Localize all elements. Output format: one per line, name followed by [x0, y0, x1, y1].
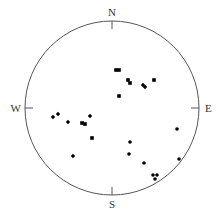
data-point-square [117, 94, 121, 98]
data-points [51, 68, 181, 181]
south-label: S [109, 198, 115, 210]
east-label: E [205, 102, 212, 114]
primitive-circle [25, 21, 199, 195]
north-label: N [108, 6, 116, 18]
stereonet-plot: N E S W [0, 0, 217, 210]
data-point-circle [127, 152, 131, 156]
data-point-diamond [71, 154, 75, 158]
data-point-square [83, 122, 87, 126]
data-point-diamond [51, 115, 55, 119]
west-label: W [11, 102, 22, 114]
data-point-square [90, 136, 94, 140]
data-point-diamond [88, 114, 92, 118]
data-point-square [117, 68, 121, 72]
data-point-circle [177, 157, 181, 161]
data-point-circle [153, 177, 157, 181]
data-point-diamond [66, 120, 70, 124]
data-point-circle [142, 161, 146, 165]
data-point-circle [155, 173, 159, 177]
data-point-square [128, 81, 132, 85]
data-point-square [152, 78, 156, 82]
data-point-circle [128, 140, 132, 144]
cardinal-ticks [25, 21, 199, 195]
data-point-circle [151, 173, 155, 177]
data-point-diamond [56, 112, 60, 116]
data-point-circle [175, 127, 179, 131]
